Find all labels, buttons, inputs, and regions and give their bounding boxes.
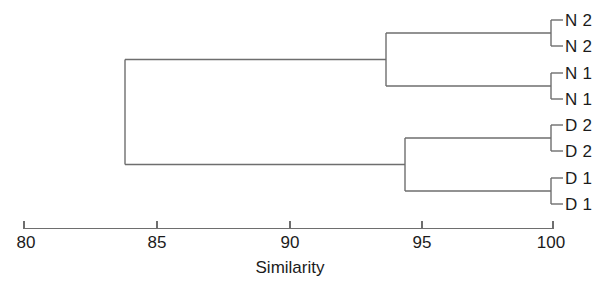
leaf-label-4: D 2 [565, 117, 592, 134]
x-tick-label-100: 100 [537, 234, 565, 251]
x-tick-label-80: 80 [17, 234, 36, 251]
leaf-label-6: D 1 [565, 170, 592, 187]
leaf-label-0: N 2 [565, 12, 592, 29]
x-tick-label-85: 85 [148, 234, 167, 251]
dendrogram-plot [0, 0, 614, 288]
x-axis-title: Similarity [256, 259, 325, 276]
leaf-label-1: N 2 [565, 38, 592, 55]
leaf-label-3: N 1 [565, 91, 592, 108]
x-tick-label-95: 95 [413, 234, 432, 251]
leaf-label-2: N 1 [565, 65, 592, 82]
dendrogram-figure: N 2 N 2 N 1 N 1 D 2 D 2 D 1 D 1 80 85 90… [0, 0, 614, 288]
x-tick-label-90: 90 [281, 234, 300, 251]
x-axis [24, 221, 553, 229]
dendrogram-links [125, 20, 563, 204]
leaf-label-7: D 1 [565, 196, 592, 213]
leaf-label-5: D 2 [565, 143, 592, 160]
